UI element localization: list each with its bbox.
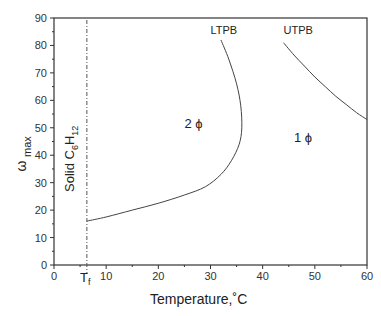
annotation-label: 2 ϕ <box>184 116 202 131</box>
annotation-label: UTPB <box>284 24 313 36</box>
y-tick-label: 70 <box>35 67 47 79</box>
series-line-utpb <box>284 43 367 120</box>
tf-label: Tf <box>80 270 91 287</box>
x-axis-title: Temperature,˚C <box>150 291 247 307</box>
y-tick-label: 0 <box>41 259 47 271</box>
plot-frame <box>54 18 367 265</box>
tf-label-text: Tf <box>80 270 91 287</box>
axes <box>54 18 367 265</box>
y-tick-label: 80 <box>35 39 47 51</box>
y-tick-label: 50 <box>35 122 47 134</box>
ticks: 01020304050600102030405060708090 <box>35 12 373 282</box>
annotation-label: 1 ϕ <box>294 130 312 145</box>
solid-region-label-text: Solid C6H12 <box>62 126 80 192</box>
x-tick-label: 10 <box>100 270 112 282</box>
y-tick-label: 90 <box>35 12 47 24</box>
series-line-ltpb <box>87 40 242 221</box>
x-tick-label: 50 <box>309 270 321 282</box>
y-axis-title-sub: max <box>21 136 33 157</box>
x-tick-label: 30 <box>204 270 216 282</box>
y-axis-title: ω max <box>13 136 33 172</box>
solid-region-label: Solid C6H12 <box>62 126 80 192</box>
y-tick-label: 60 <box>35 94 47 106</box>
y-tick-label: 30 <box>35 177 47 189</box>
y-tick-label: 10 <box>35 232 47 244</box>
annotation-label: LTPB <box>211 24 238 36</box>
x-tick-label: 0 <box>51 270 57 282</box>
y-axis-title-main: ω <box>13 160 29 171</box>
series <box>87 20 367 273</box>
x-tick-label: 20 <box>152 270 164 282</box>
annotations: LTPBUTPB2 ϕ1 ϕ <box>184 24 312 144</box>
phase-diagram-chart: 01020304050600102030405060708090 Tempera… <box>0 0 381 316</box>
y-tick-label: 20 <box>35 204 47 216</box>
x-tick-label: 40 <box>257 270 269 282</box>
y-tick-label: 40 <box>35 149 47 161</box>
x-tick-label: 60 <box>361 270 373 282</box>
